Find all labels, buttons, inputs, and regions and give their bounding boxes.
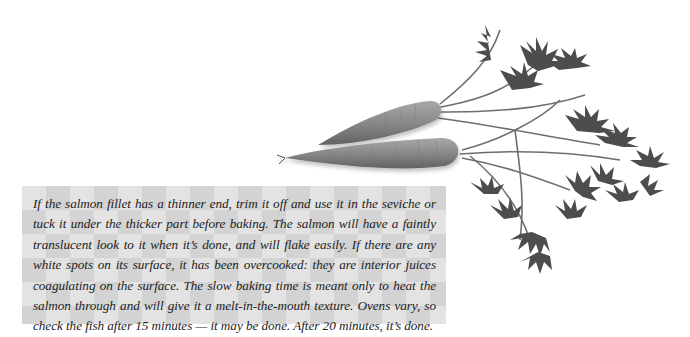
- cooking-tip-text: If the salmon fillet has a thinner end, …: [33, 194, 436, 337]
- lower-carrot: [277, 138, 458, 168]
- upper-carrot: [318, 101, 441, 145]
- cooking-tip-box: If the salmon fillet has a thinner end, …: [22, 186, 446, 324]
- carrot-leaves: [470, 25, 670, 274]
